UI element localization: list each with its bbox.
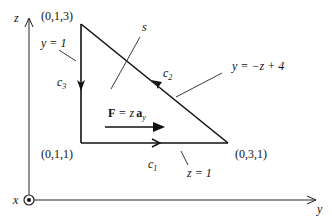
vertex-top-label: (0,1,3) <box>41 10 73 22</box>
vertex-bottom-left-label: (0,1,1) <box>41 148 73 160</box>
c2-label: c2 <box>163 67 172 82</box>
force-field-label: F = zay <box>108 107 146 122</box>
x-axis-out-of-page-icon <box>24 195 34 205</box>
surface-s-label: s <box>142 21 147 33</box>
y-axis <box>34 196 316 204</box>
diagram-canvas: z y x (0,1,3) (0,1,1) (0,3,1) c3 c1 c2 s… <box>0 0 332 217</box>
z-eq-1-leader-line <box>181 151 188 165</box>
bottom-edge-equation: z = 1 <box>187 167 212 179</box>
y-axis-label: y <box>317 203 322 215</box>
s-leader-line <box>111 37 140 89</box>
left-edge-equation: y = 1 <box>41 37 66 49</box>
hypotenuse-equation: y = −z + 4 <box>232 60 284 72</box>
force-vector-arrow <box>105 122 165 132</box>
z-axis <box>25 18 33 200</box>
hypotenuse-leader-line <box>176 73 222 97</box>
y-eq-1-leader-line <box>59 50 76 61</box>
x-axis-label: x <box>13 194 18 206</box>
diagram-lines <box>0 0 332 217</box>
c1-label: c1 <box>148 158 157 173</box>
c3-label: c3 <box>57 76 66 91</box>
z-axis-label: z <box>14 12 19 24</box>
vertex-bottom-right-label: (0,3,1) <box>235 148 267 160</box>
